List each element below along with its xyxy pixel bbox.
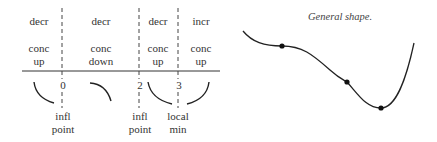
tick-label-3: 3 — [176, 79, 182, 92]
note-0-line2: point — [52, 123, 75, 136]
shape-decr-conc-up-1 — [34, 82, 54, 103]
tick-label-2: 2 — [137, 79, 143, 92]
general-shape-curve — [243, 31, 414, 108]
interval-4-concavity-a: conc — [191, 42, 212, 55]
interval-4-monotonic: incr — [192, 15, 209, 28]
interval-1-monotonic: decr — [30, 15, 49, 28]
interval-3-concavity-b: up — [153, 55, 164, 68]
note-2-line1: infl — [132, 110, 147, 123]
local-min-dot — [378, 105, 383, 110]
note-3-line2: min — [169, 123, 186, 136]
inflection-point-dot-2 — [344, 79, 349, 84]
interval-4-concavity-b: up — [196, 55, 207, 68]
tick-label-0: 0 — [60, 79, 66, 92]
inflection-point-dot-0 — [279, 43, 284, 48]
interval-2-monotonic: decr — [92, 15, 111, 28]
graph-title: General shape. — [308, 11, 372, 22]
interval-3-concavity-a: conc — [148, 42, 169, 55]
shape-decr-conc-down — [90, 83, 111, 101]
interval-1-concavity-a: conc — [29, 42, 50, 55]
shape-incr-conc-up — [187, 82, 209, 104]
shape-decr-conc-up-2 — [148, 82, 172, 104]
interval-1-concavity-b: up — [34, 55, 45, 68]
interval-2-concavity-b: down — [89, 55, 113, 68]
note-0-line1: infl — [55, 110, 70, 123]
interval-2-concavity-a: conc — [91, 42, 112, 55]
note-2-line2: point — [129, 123, 152, 136]
interval-3-monotonic: decr — [149, 15, 168, 28]
note-3-line1: local — [167, 110, 188, 123]
